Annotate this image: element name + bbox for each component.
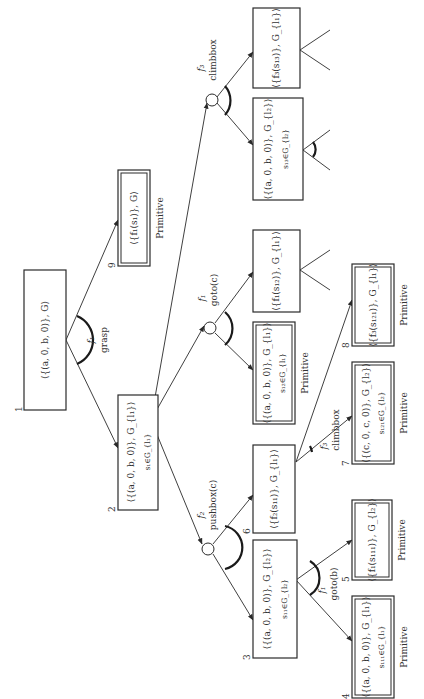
and-arc-c1-open [313,142,316,157]
node-8-primitive: Primitive [399,284,409,326]
node-2[interactable]: ⟨{(a, 0, b, 0)}, G_{l₁}⟩ s₁∈G_{l₁} 2 [107,395,158,512]
node-climbbox-child-2[interactable]: ⟨{f₃(s₁₃)}, G_{l₁}⟩ [253,8,300,88]
open-branch-g2-a [300,250,330,270]
op-grasp: f₁ grasp [86,327,109,353]
node-4[interactable]: ⟨{(a, 0, b, 0)}, G_{l₁}⟩ s₁₁₁∈G_{l₁} 4 P… [341,596,409,699]
node-c1-condition: s₁₃∈G_{l₂} [281,129,290,169]
node-4-label: ⟨{(a, 0, b, 0)}, G_{l₁}⟩ [361,597,372,698]
and-or-search-tree: ⟨{(a, 0, b, 0)}, G⟩ 1 ⟨{f₁(s₁)}, G⟩ 9 Pr… [0,0,424,699]
edge-climbbox-c2 [217,52,253,97]
node-9-number: 9 [107,262,117,268]
node-3-condition: s₁₁∈G_{l₂} [280,579,289,619]
node-7[interactable]: ⟨{(c, 0, c, 0)}, G_{l₂}⟩ s₁₂₁∈G_{l₂} 7 P… [341,362,409,466]
op-pushbox-function: f₂ [196,511,206,519]
or-node-pushbox[interactable] [202,543,214,555]
node-5[interactable]: ⟨{f₁(s₁₁₁)}, G_{l₂}⟩ 5 Primitive [341,498,407,582]
open-branch-c1-b [303,150,330,170]
node-6-number: 6 [242,528,252,534]
op-goto-c-action: goto(c) [209,274,219,306]
open-branch-c2-b [300,50,330,70]
node-1-number: 1 [14,406,24,412]
node-3-label: ⟨{(a, 0, b, 0)}, G_{l₂}⟩ [262,549,273,650]
node-climbbox-child-1[interactable]: ⟨{(a, 0, b, 0)}, G_{l₂}⟩ s₁₃∈G_{l₂} [253,98,303,200]
node-6[interactable]: ⟨{f₂(s₁₁)}, G_{l₁}⟩ 6 [242,445,295,534]
edge-1-9 [66,220,118,340]
edge-pushbox-6 [213,495,253,544]
op-pushbox-action: pushbox(c) [208,480,218,530]
node-8-label: ⟨{f₃(s₁₂₁)}, G_{l₁}⟩ [368,263,379,346]
node-g1-label: ⟨{(a, 0, b, 0)}, G_{l₁}⟩ [262,323,273,424]
op-goto-b-function: f₁ [317,587,327,595]
node-7-label: ⟨{(c, 0, c, 0)}, G_{l₂}⟩ [361,363,372,463]
op-goto-b-action: goto(b) [329,568,339,601]
open-branch-g2-b [300,270,330,290]
edge-goto-c-g1 [215,333,253,370]
op-grasp-function: f₁ [86,337,96,345]
op-goto-b: f₁ goto(b) [317,568,339,601]
and-arc-climbbox [225,86,230,115]
node-1[interactable]: ⟨{(a, 0, b, 0)}, G⟩ 1 [14,270,66,412]
node-4-condition: s₁₁₁∈G_{l₁} [377,625,386,668]
or-node-goto-c[interactable] [204,322,216,334]
and-arc-pushbox [225,526,242,569]
node-g1-condition: s₁₂∈G_{l₁} [278,353,287,393]
edge-2-pushbox [151,420,202,544]
node-9-label: ⟨{f₁(s₁)}, G⟩ [129,191,139,245]
edge-2-climbbox [151,103,207,420]
node-5-number: 5 [341,576,351,582]
node-3[interactable]: ⟨{(a, 0, b, 0)}, G_{l₂}⟩ s₁₁∈G_{l₂} 3 [242,540,297,660]
edge-1-2 [66,340,118,448]
node-c2-label: ⟨{f₃(s₁₃)}, G_{l₁}⟩ [271,8,282,88]
node-7-condition: s₁₂₁∈G_{l₂} [377,391,386,434]
or-node-climbbox[interactable] [206,94,218,106]
node-2-label: ⟨{(a, 0, b, 0)}, G_{l₁}⟩ [126,402,137,503]
op-climbbox-top-function: f₃ [196,64,206,72]
node-g1-primitive: Primitive [300,352,310,394]
edge-pushbox-3 [213,554,253,620]
open-branch-c2-a [300,30,330,50]
edge-3-5 [296,540,352,580]
node-8-number: 8 [341,342,351,348]
op-goto-c-function: f₁ [197,295,207,303]
edge-climbbox-c1 [217,103,253,145]
node-4-number: 4 [341,693,351,699]
node-g2-label: ⟨{f₁(s₁₂)}, G_{l₁}⟩ [271,231,282,311]
node-3-number: 3 [242,654,252,660]
op-climbbox-top-action: climbbox [208,39,218,80]
op-climbbox-6-function: f₃ [319,442,329,450]
node-c1-label: ⟨{(a, 0, b, 0)}, G_{l₂}⟩ [263,99,274,200]
node-2-condition: s₁∈G_{l₁} [143,433,152,470]
node-goto-c-child-2[interactable]: ⟨{f₁(s₁₂)}, G_{l₁}⟩ [253,230,300,312]
op-climbbox-top: f₃ climbbox [196,39,218,80]
node-9[interactable]: ⟨{f₁(s₁)}, G⟩ 9 Primitive [107,170,165,268]
node-5-label: ⟨{f₁(s₁₁₁)}, G_{l₂}⟩ [367,498,378,581]
op-grasp-action: grasp [99,327,109,353]
and-arc-goto-c [225,312,232,345]
node-7-primitive: Primitive [399,392,409,434]
node-1-label: ⟨{(a, 0, b, 0)}, G⟩ [40,301,50,379]
edge-goto-c-g2 [215,272,253,323]
op-pushbox: f₂ pushbox(c) [196,480,218,530]
node-4-primitive: Primitive [399,626,409,668]
and-arc-climbbox-6 [310,446,312,452]
node-2-number: 2 [107,506,117,512]
op-goto-c: f₁ goto(c) [197,274,219,306]
op-climbbox-6-action: climbbox [331,409,341,450]
node-7-number: 7 [341,460,351,466]
node-8[interactable]: ⟨{f₃(s₁₂₁)}, G_{l₁}⟩ 8 Primitive [341,263,409,348]
node-6-label: ⟨{f₂(s₁₁)}, G_{l₁}⟩ [269,449,280,529]
node-9-primitive: Primitive [155,197,165,239]
op-climbbox-6: f₃ climbbox [319,409,341,450]
node-5-primitive: Primitive [397,519,407,561]
node-goto-c-child-1[interactable]: ⟨{(a, 0, b, 0)}, G_{l₁}⟩ s₁₂∈G_{l₁} Prim… [253,322,310,424]
